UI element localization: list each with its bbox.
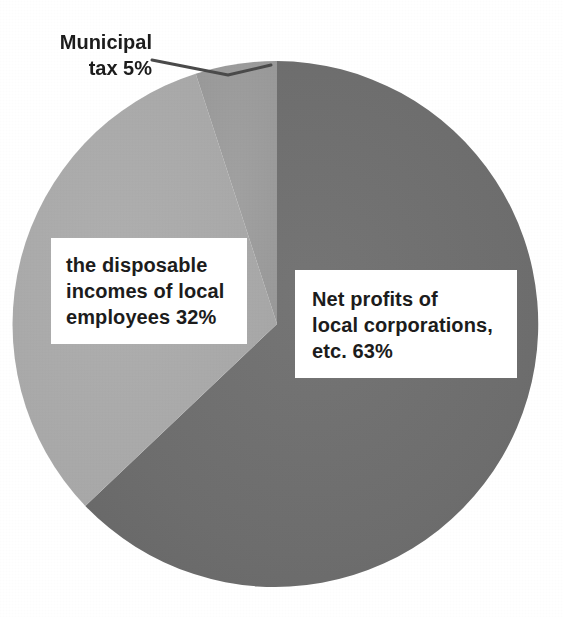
pie-label-disposable-incomes: the disposable incomes of local employee…: [51, 238, 247, 344]
pie-chart: Municipal tax 5% the disposable incomes …: [0, 0, 563, 617]
pie-label-municipal-tax: Municipal tax 5%: [10, 29, 152, 81]
pie-label-net-profits: Net profits of local corporations, etc. …: [295, 270, 517, 378]
